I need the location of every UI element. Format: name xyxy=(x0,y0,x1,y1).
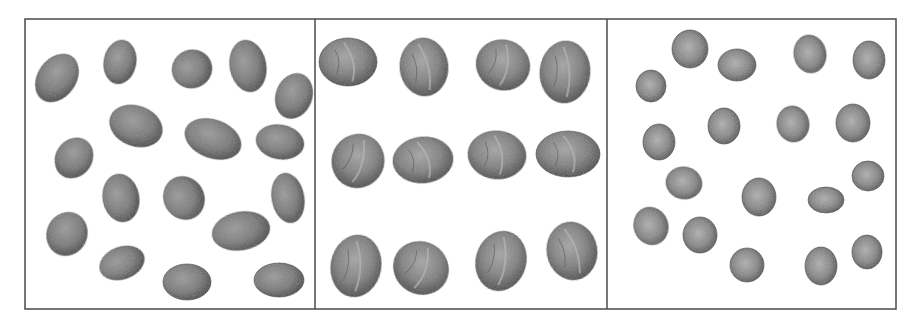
oval-seed xyxy=(269,68,319,124)
walnut xyxy=(466,129,528,182)
oval-seed xyxy=(226,37,270,94)
oval-seed xyxy=(47,130,101,185)
round-seed xyxy=(808,187,844,213)
round-seed xyxy=(718,49,756,81)
round-seed xyxy=(643,124,675,160)
panel-walnuts xyxy=(319,32,602,304)
round-seed xyxy=(742,178,776,216)
oval-seed xyxy=(40,206,95,263)
oval-seed xyxy=(254,263,304,297)
round-seed xyxy=(774,103,812,144)
walnut xyxy=(537,39,592,105)
round-seed xyxy=(629,202,674,249)
round-seed xyxy=(636,70,666,102)
round-seed xyxy=(836,104,870,142)
walnut xyxy=(326,231,386,301)
round-seed xyxy=(663,164,704,202)
oval-seed xyxy=(209,207,273,254)
round-seed xyxy=(805,247,837,285)
figure-frame xyxy=(25,19,896,309)
walnut xyxy=(384,231,458,304)
oval-seed xyxy=(253,121,306,163)
walnut xyxy=(391,134,455,185)
oval-seed xyxy=(99,171,143,225)
walnut xyxy=(323,126,393,197)
round-seed xyxy=(683,217,717,253)
oval-seed xyxy=(179,111,246,167)
walnut xyxy=(319,38,377,86)
round-seed xyxy=(852,161,884,191)
oval-seed xyxy=(27,46,88,110)
oval-seed xyxy=(104,98,168,154)
round-seed xyxy=(730,248,764,282)
panel-round-seeds xyxy=(629,30,885,285)
round-seed xyxy=(672,30,708,68)
walnut xyxy=(398,36,451,98)
oval-seed xyxy=(156,169,213,227)
seed-comparison-figure xyxy=(0,0,923,330)
oval-seed xyxy=(268,171,308,226)
round-seed xyxy=(708,108,740,144)
round-seed xyxy=(852,235,882,269)
walnut xyxy=(469,226,533,297)
oval-seed xyxy=(95,240,149,286)
walnut xyxy=(542,218,601,284)
walnut xyxy=(536,131,600,177)
panel-oval-seeds xyxy=(27,37,319,300)
oval-seed xyxy=(167,44,218,93)
oval-seed xyxy=(163,264,211,300)
round-seed xyxy=(791,33,829,76)
walnut xyxy=(469,32,537,97)
oval-seed xyxy=(100,38,139,87)
round-seed xyxy=(853,41,885,79)
